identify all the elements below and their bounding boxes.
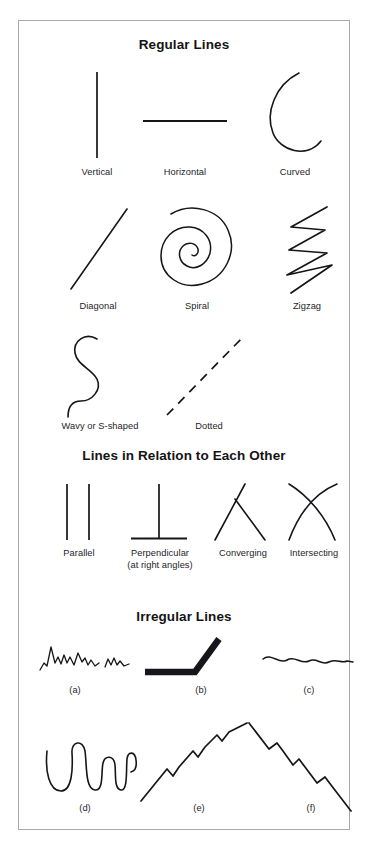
figure-vertical: [67, 69, 127, 161]
figure-wavy: [61, 333, 137, 419]
caption-curved: Curved: [257, 167, 333, 178]
figure-dotted: [159, 333, 255, 419]
section-heading-irregular-lines: Irregular Lines: [19, 609, 349, 624]
figure-irregular-d: [39, 733, 143, 799]
figure-zigzag: [269, 203, 345, 295]
caption-perpendicular: Perpendicular (at right angles): [117, 548, 203, 571]
figure-perpendicular: [123, 481, 195, 543]
figure-curved: [259, 69, 331, 161]
figure-converging: [209, 481, 273, 543]
figure-diagonal: [59, 203, 139, 295]
caption-spiral: Spiral: [157, 301, 237, 312]
caption-vertical: Vertical: [57, 167, 137, 178]
caption-irregular-f: (f): [291, 803, 331, 814]
caption-irregular-a: (a): [55, 685, 95, 696]
caption-intersecting: Intersecting: [275, 548, 353, 559]
caption-parallel: Parallel: [43, 548, 115, 559]
section-heading-regular-lines: Regular Lines: [19, 37, 349, 52]
caption-irregular-e: (e): [179, 803, 219, 814]
figure-intersecting: [281, 481, 345, 543]
diagram-sheet: Regular Lines Vertical Horizontal Curved…: [18, 20, 350, 830]
figure-horizontal: [139, 69, 231, 161]
caption-perpendicular-line2: (at right angles): [127, 560, 192, 570]
caption-irregular-d: (d): [65, 803, 105, 814]
figure-irregular-f: [247, 721, 359, 815]
caption-horizontal: Horizontal: [145, 167, 225, 178]
figure-irregular-a: [37, 639, 133, 677]
caption-wavy: Wavy or S-shaped: [35, 421, 165, 432]
section-heading-lines-in-relation: Lines in Relation to Each Other: [19, 448, 349, 463]
figure-parallel: [51, 481, 107, 543]
caption-irregular-c: (c): [289, 685, 329, 696]
caption-converging: Converging: [205, 548, 281, 559]
caption-irregular-b: (b): [181, 685, 221, 696]
figure-irregular-c: [259, 639, 357, 677]
caption-zigzag: Zigzag: [269, 301, 345, 312]
figure-spiral: [153, 203, 241, 295]
figure-irregular-b: [141, 635, 231, 679]
caption-dotted: Dotted: [171, 421, 247, 432]
caption-perpendicular-line1: Perpendicular: [131, 548, 189, 558]
figure-irregular-e: [137, 721, 257, 805]
caption-diagonal: Diagonal: [57, 301, 139, 312]
